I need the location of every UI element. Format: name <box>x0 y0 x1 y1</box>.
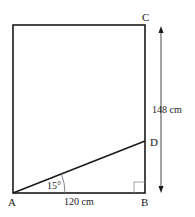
arrow-down-icon <box>159 186 164 193</box>
geometry-diagram: C D B A 15° 120 cm 148 cm <box>0 0 195 217</box>
arrow-up-icon <box>159 26 164 33</box>
base-length-label: 120 cm <box>64 196 94 207</box>
point-label-a: A <box>8 196 16 208</box>
point-label-b: B <box>141 196 148 208</box>
line-ad <box>13 141 145 193</box>
point-label-d: D <box>150 136 158 148</box>
right-angle-marker <box>134 182 145 193</box>
height-length-label: 148 cm <box>152 104 182 115</box>
angle-label: 15° <box>47 180 61 191</box>
point-label-c: C <box>142 11 149 23</box>
angle-arc <box>61 174 65 193</box>
